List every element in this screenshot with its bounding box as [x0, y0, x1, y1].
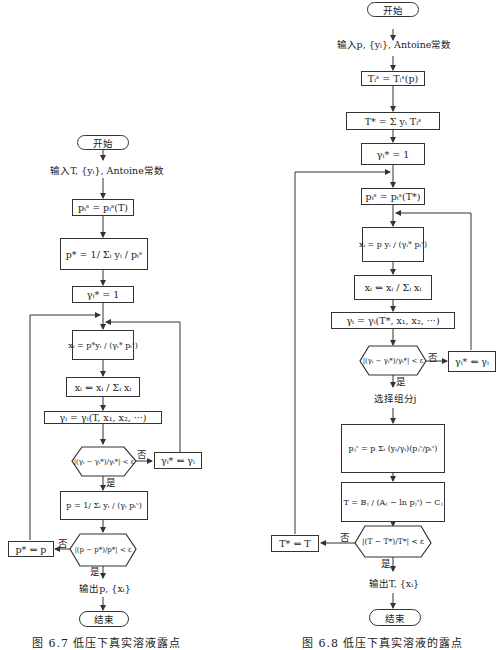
right-psat-label: pᵢˢ = pᵢˢ(T*)	[366, 191, 421, 202]
right-end-node: 结束	[369, 609, 421, 626]
right-output-label: 输出T, {xᵢ}	[369, 576, 419, 590]
right-gamma-update-node: γᵢ* ⇐ γᵢ	[448, 351, 496, 372]
right-no-label-2: 否	[340, 530, 350, 544]
left-gamma-init-node: γᵢ* = 1	[72, 286, 134, 303]
left-psat-label: pᵢˢ = pᵢˢ(T)	[78, 202, 128, 213]
right-gamma-calc-label: γᵢ = γᵢ(T*, x₁, x₂, ···)	[346, 315, 439, 326]
right-gamma-check-label: |(γᵢ − γᵢ*)/γᵢ*| < ε	[363, 357, 424, 365]
left-gamma-check-node: |(γᵢ − γᵢ*)/γᵢ*| < ε	[72, 447, 136, 476]
right-no-label-1: 否	[428, 350, 438, 364]
right-tsat-node: Tᵢˢ = Tᵢˢ(p)	[361, 71, 425, 86]
right-t-check-node: |(T − T*)/T*| < ε	[355, 526, 431, 557]
left-p-calc-node: p = 1/ Σᵢ yᵢ / (γᵢ pᵢˢ)	[60, 491, 148, 520]
right-t-calc-label: T = Bⱼ / (Aⱼ − ln pⱼˢ) − Cⱼ	[343, 498, 442, 507]
left-p-calc-label: p = 1/ Σᵢ yᵢ / (γᵢ pᵢˢ)	[66, 501, 142, 510]
right-pj-calc-node: pⱼˢ = p Σᵢ (yᵢ/γᵢ)(pⱼˢ/pᵢˢ)	[341, 424, 445, 473]
left-gamma-calc-label: γᵢ = γᵢ(T, x₁, x₂, ···)	[59, 412, 146, 423]
right-pj-calc-label: pⱼˢ = p Σᵢ (yᵢ/γᵢ)(pⱼˢ/pᵢˢ)	[349, 444, 438, 453]
right-caption: 图 6.8 低压下真实溶液的露点	[302, 634, 464, 650]
right-tstar-node: T* = Σ yᵢ Tᵢˢ	[346, 112, 440, 130]
right-x-calc-label: xᵢ = p yᵢ / (γᵢ* pᵢˢ)	[359, 240, 427, 249]
left-input-label: 输入T, {yᵢ}, Antoine常数	[50, 163, 164, 177]
left-x-norm-label: xᵢ ⇐ xᵢ / Σᵢ xᵢ	[75, 382, 132, 393]
left-gamma-check-label: |(γᵢ − γᵢ*)/γᵢ*| < ε	[74, 458, 135, 466]
left-x-calc-label: xᵢ = p*yᵢ / (γᵢ* pᵢˢ)	[68, 341, 138, 350]
left-pstar-node: p* = 1/ Σᵢ yᵢ / pᵢˢ	[60, 238, 148, 270]
right-x-norm-node: xᵢ ⇐ xᵢ / Σᵢ xᵢ	[354, 275, 432, 300]
left-input-node: 输入T, {yᵢ}, Antoine常数	[22, 161, 192, 178]
right-t-update-label: T* ⇐ T	[279, 538, 310, 549]
right-end-label: 结束	[385, 611, 405, 625]
left-yes-label-2: 是	[90, 564, 100, 578]
right-output-node: 输出T, {xᵢ}	[356, 572, 432, 593]
left-p-check-node: |(p − p*)/p*| < ε	[70, 534, 136, 566]
left-end-node: 结束	[79, 611, 129, 627]
right-gamma-check-node: |(γᵢ − γᵢ*)/γᵢ*| < ε	[360, 346, 426, 375]
left-caption: 图 6.7 低压下真实溶液露点	[32, 634, 182, 650]
right-gamma-update-label: γᵢ* ⇐ γᵢ	[455, 356, 489, 367]
right-yes-label-1: 是	[396, 374, 406, 388]
left-start-label: 开始	[93, 136, 113, 150]
right-input-label: 输入p, {yᵢ}, Antoine常数	[337, 37, 452, 51]
right-select-node: 选择组分j	[320, 388, 470, 408]
right-gamma-calc-node: γᵢ = γᵢ(T*, x₁, x₂, ···)	[331, 312, 455, 329]
right-gamma-init-node: γᵢ* = 1	[361, 143, 425, 165]
left-gamma-update-label: γᵢ* ⇐ γᵢ	[161, 455, 195, 466]
right-psat-node: pᵢˢ = pᵢˢ(T*)	[361, 188, 425, 205]
left-yes-label-1: 是	[106, 475, 116, 489]
left-gamma-calc-node: γᵢ = γᵢ(T, x₁, x₂, ···)	[44, 411, 162, 424]
left-no-label-2: 否	[58, 536, 68, 550]
left-p-check-label: |(p − p*)/p*| < ε	[74, 546, 131, 554]
left-start-node: 开始	[77, 135, 129, 150]
left-x-calc-node: xᵢ = p*yᵢ / (γᵢ* pᵢˢ)	[72, 330, 134, 360]
left-no-label-1: 否	[137, 447, 147, 461]
right-yes-label-2: 是	[381, 556, 391, 570]
left-gamma-update-node: γᵢ* ⇐ γᵢ	[154, 452, 202, 469]
left-x-norm-node: xᵢ ⇐ xᵢ / Σᵢ xᵢ	[66, 377, 140, 397]
left-psat-node: pᵢˢ = pᵢˢ(T)	[72, 199, 134, 216]
left-output-node: 输出p, {xᵢ}	[70, 579, 140, 597]
right-select-label: 选择组分j	[374, 391, 417, 405]
left-gamma-init-label: γᵢ* = 1	[87, 289, 119, 300]
right-gamma-init-label: γᵢ* = 1	[377, 149, 409, 160]
right-x-calc-node: xᵢ = p yᵢ / (γᵢ* pᵢˢ)	[362, 227, 424, 262]
right-tsat-label: Tᵢˢ = Tᵢˢ(p)	[368, 73, 418, 84]
right-tstar-label: T* = Σ yᵢ Tᵢˢ	[365, 116, 422, 127]
left-p-update-label: p* ⇐ p	[16, 544, 47, 555]
left-output-label: 输出p, {xᵢ}	[79, 581, 130, 595]
right-start-label: 开始	[383, 3, 403, 17]
left-p-update-node: p* ⇐ p	[8, 541, 54, 557]
left-end-label: 结束	[94, 612, 114, 626]
left-pstar-label: p* = 1/ Σᵢ yᵢ / pᵢˢ	[66, 249, 142, 260]
right-t-update-node: T* ⇐ T	[271, 535, 319, 552]
right-start-node: 开始	[367, 2, 419, 17]
right-t-calc-node: T = Bⱼ / (Aⱼ − ln pⱼˢ) − Cⱼ	[341, 482, 445, 522]
right-t-check-label: |(T − T*)/T*| < ε	[362, 537, 424, 546]
right-x-norm-label: xᵢ ⇐ xᵢ / Σᵢ xᵢ	[365, 282, 422, 293]
right-input-node: 输入p, {yᵢ}, Antoine常数	[306, 32, 482, 56]
